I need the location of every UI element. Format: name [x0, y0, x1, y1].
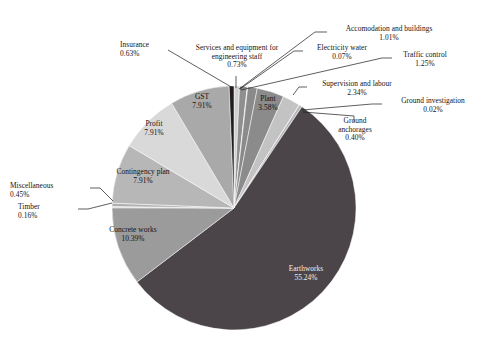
label-traffic-control: Traffic control 1.25%: [394, 51, 456, 68]
label-services: Services and equipment for engineering s…: [185, 44, 289, 70]
leader-miscellaneous: [90, 188, 113, 201]
label-earthworks-value: 55.24%: [275, 274, 337, 283]
label-timber: Timber 0.16%: [18, 203, 76, 220]
label-plant-value: 3.58%: [246, 104, 290, 113]
label-profit-value: 7.91%: [131, 129, 177, 138]
label-profit: Profit 7.91%: [131, 120, 177, 138]
label-ground-investigation-value: 0.02%: [385, 106, 481, 115]
label-ground-investigation: Ground investigation 0.02%: [385, 97, 481, 114]
label-gst-value: 7.91%: [180, 102, 224, 111]
label-supervision: Supervision and labour 2.34%: [310, 80, 404, 97]
label-insurance: Insurance 0.63%: [120, 41, 149, 58]
label-insurance-value: 0.63%: [120, 50, 149, 59]
leader-ground-investigation: [302, 104, 382, 110]
label-traffic-control-value: 1.25%: [394, 60, 456, 69]
pie-chart-figure: Insurance 0.63% Services and equipment f…: [0, 0, 482, 352]
label-concrete-works: Concrete works 10.39%: [94, 226, 172, 244]
label-contingency-plan-value: 7.91%: [104, 177, 182, 186]
label-gst: GST 7.91%: [180, 93, 224, 111]
label-miscellaneous-value: 0.45%: [10, 191, 88, 200]
leader-timber: [78, 203, 112, 209]
label-accommodation-value: 1.01%: [330, 34, 448, 43]
label-contingency-plan: Contingency plan 7.91%: [104, 168, 182, 186]
label-ground-anchorages-value: 0.40%: [330, 134, 380, 143]
leader-supervision: [293, 87, 307, 95]
label-accommodation: Accomodation and buildings 1.01%: [330, 25, 448, 42]
label-earthworks: Earthworks 55.24%: [275, 265, 337, 283]
label-electricity: Electricity water 0.07%: [306, 44, 378, 61]
label-concrete-works-value: 10.39%: [94, 235, 172, 244]
label-miscellaneous: Miscellaneous 0.45%: [10, 182, 88, 199]
label-electricity-value: 0.07%: [306, 53, 378, 62]
label-services-value: 0.73%: [185, 61, 289, 70]
label-plant: Plant 3.58%: [246, 95, 290, 113]
label-ground-anchorages: Ground anchorages 0.40%: [330, 117, 380, 143]
label-timber-value: 0.16%: [18, 212, 76, 221]
